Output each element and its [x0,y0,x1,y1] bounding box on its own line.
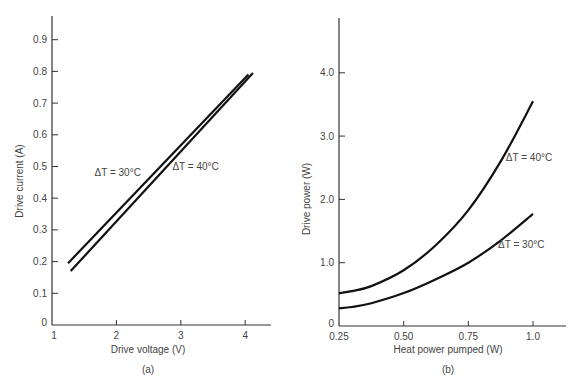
x-tick-label: 1 [51,330,57,341]
y-tick-label: 0.2 [33,256,47,267]
panel-b-y-axis-title: Drive power (W) [301,163,312,235]
y-tick-label: 1.0 [320,257,334,268]
x-tick-label: 0.75 [459,331,479,342]
series-line-dt30 [339,214,533,308]
figure: 123400.10.20.30.40.50.60.70.80.9 ΔT = 30… [0,0,578,384]
panel-b-drive-power-vs-heat-power: 0.250.500.751.001.02.03.04.0 ΔT = 40°CΔT… [301,18,566,375]
y-tick-label: 2.0 [320,194,334,205]
y-tick-label: 0.9 [33,34,47,45]
x-tick-label: 0.25 [329,331,349,342]
y-tick-label: 0.4 [33,193,47,204]
panel-a-x-axis-title: Drive voltage (V) [111,344,185,355]
x-tick-label: 1.0 [526,331,540,342]
y-tick-label: 0.8 [33,66,47,77]
series-annotation-dt30: ΔT = 30°C [498,239,544,250]
y-tick-label: 3.0 [320,131,334,142]
series-line-dt40 [339,101,533,293]
x-tick-label: 0.50 [394,331,414,342]
panel-b-label: (b) [442,364,454,375]
y-tick-label: 0 [41,317,47,328]
panel-b-x-axis-title: Heat power pumped (W) [394,344,503,355]
y-tick-label: 0.1 [33,288,47,299]
y-tick-label: 0.5 [33,161,47,172]
x-tick-label: 3 [178,330,184,341]
x-tick-label: 4 [242,330,248,341]
y-tick-label: 0.3 [33,224,47,235]
x-tick-label: 2 [114,330,120,341]
y-tick-label: 0.6 [33,129,47,140]
y-tick-label: 4.0 [320,67,334,78]
y-tick-label: 0.7 [33,98,47,109]
series-annotation-dt40: ΔT = 40°C [506,152,552,163]
y-tick-label: 0 [328,318,334,329]
panel-a-drive-current-vs-voltage: 123400.10.20.30.40.50.60.70.80.9 ΔT = 30… [14,16,271,375]
series-annotation-dt40: ΔT = 40°C [172,161,218,172]
panel-a-label: (a) [142,364,154,375]
panel-a-y-axis-title: Drive current (A) [14,144,25,217]
series-annotation-dt30: ΔT = 30°C [95,167,141,178]
